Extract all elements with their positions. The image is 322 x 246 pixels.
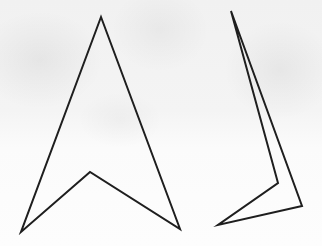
arrowhead-tilted-view-shape <box>218 11 302 225</box>
diagram-canvas <box>0 0 322 246</box>
arrowhead-front-view-shape <box>21 17 180 232</box>
shapes-figure <box>0 0 322 246</box>
